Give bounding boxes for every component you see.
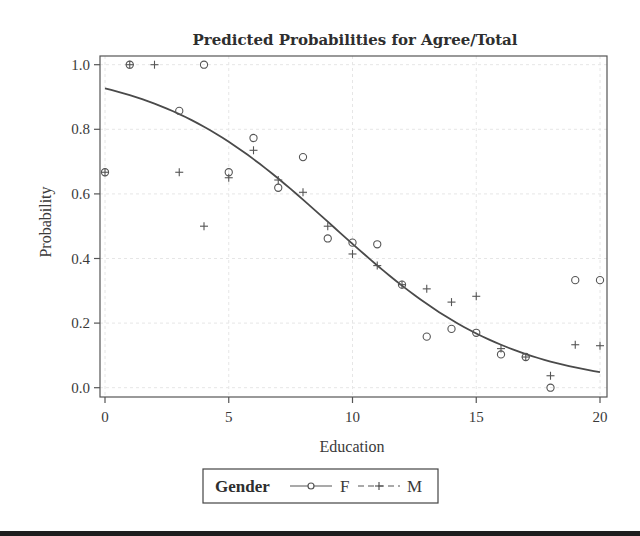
f-circle-marker-icon: [374, 241, 381, 248]
m-plus-marker-icon: [175, 168, 183, 176]
m-plus-marker-icon: [250, 146, 258, 154]
chart-title: Predicted Probabilities for Agree/Total: [192, 31, 517, 49]
plot-frame: [100, 56, 607, 397]
x-tick-label: 10: [345, 409, 360, 425]
y-tick-label: 0.6: [71, 186, 90, 202]
legend-f-label: F: [340, 477, 349, 496]
gridlines: [100, 56, 607, 397]
f-circle-marker-icon: [448, 325, 455, 332]
m-plus-marker-icon: [547, 372, 555, 380]
y-tick-label: 0.2: [71, 315, 90, 331]
x-tick-label: 5: [225, 409, 233, 425]
x-axis-label: Education: [320, 438, 385, 455]
legend-title: Gender: [215, 477, 270, 496]
m-plus-marker-icon: [472, 292, 480, 300]
f-circle-marker-icon: [423, 333, 430, 340]
m-plus-marker-icon: [423, 285, 431, 293]
legend-m-label: M: [407, 477, 422, 496]
m-plus-marker-icon: [596, 342, 604, 350]
legend: Gender F M: [203, 469, 438, 503]
y-tick-label: 0.0: [71, 380, 90, 396]
f-circle-marker-icon: [275, 184, 282, 191]
f-circle-marker-icon: [250, 134, 257, 141]
y-tick-label: 0.4: [71, 251, 90, 267]
f-circle-marker-icon: [572, 277, 579, 284]
bottom-border-bar: [0, 531, 640, 536]
x-axis: 05101520: [101, 397, 607, 425]
m-plus-marker-icon: [200, 222, 208, 230]
legend-f-circle-icon: [308, 483, 314, 489]
m-plus-marker-icon: [571, 341, 579, 349]
m-plus-marker-icon: [349, 250, 357, 258]
f-circle-marker-icon: [299, 153, 306, 160]
y-axis-label: Probability: [37, 186, 55, 257]
f-circle-marker-icon: [324, 235, 331, 242]
y-tick-label: 0.8: [71, 121, 90, 137]
x-tick-label: 0: [101, 409, 109, 425]
y-tick-label: 1.0: [71, 57, 90, 73]
chart: Predicted Probabilities for Agree/Total …: [0, 0, 640, 536]
m-plus-marker-icon: [151, 61, 159, 69]
m-plus-marker-icon: [299, 188, 307, 196]
y-axis: 0.00.20.40.60.81.0: [71, 57, 100, 396]
m-plus-marker-icon: [448, 298, 456, 306]
x-tick-label: 15: [469, 409, 484, 425]
x-tick-label: 20: [593, 409, 608, 425]
